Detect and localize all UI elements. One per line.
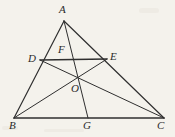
geometry-figure: A B C D E F O G — [0, 0, 175, 137]
point-label-F: F — [58, 44, 65, 55]
point-label-A: A — [59, 4, 66, 15]
point-label-O: O — [71, 83, 79, 94]
segment-AG — [64, 21, 88, 118]
segment-BE — [14, 59, 107, 118]
triangle-diagram-svg — [0, 0, 175, 137]
segments-group — [14, 21, 164, 118]
segment-AB — [14, 21, 64, 118]
point-label-C: C — [157, 120, 164, 131]
point-label-G: G — [83, 120, 91, 131]
point-label-B: B — [9, 120, 16, 131]
segment-AC — [64, 21, 164, 118]
segment-CD — [40, 60, 164, 118]
point-label-E: E — [110, 51, 117, 62]
point-label-D: D — [28, 53, 36, 64]
